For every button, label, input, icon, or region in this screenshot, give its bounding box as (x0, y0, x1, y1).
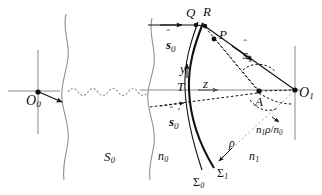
label-point-t: T (177, 80, 184, 93)
label-surface-sigma0: Σ0 (193, 176, 204, 190)
diagram-canvas (0, 0, 322, 195)
label-surface-s0: S0 (104, 150, 115, 165)
surface-s0-curve (62, 14, 69, 180)
point-dot-o1 (292, 87, 297, 92)
label-medium-n1: n1 (249, 150, 259, 164)
label-point-o1: O1 (299, 86, 314, 102)
label-scaled-rho: n1ρ/n0 (256, 124, 283, 137)
optics-ray-diagram-figure: O0 O1 Q R P T A y z S0 n0 n1 Σ0 Σ1 ρ n1ρ… (0, 0, 322, 195)
surface-n0-entry-curve (148, 18, 155, 180)
label-rho: ρ (229, 137, 235, 149)
label-point-p: P (219, 28, 227, 41)
point-dot-q (194, 23, 198, 27)
refracting-surface-sigma1-curve (189, 23, 214, 168)
wavy-propagation-path (68, 89, 148, 96)
label-medium-n0: n0 (158, 150, 168, 164)
label-point-r: R (203, 5, 211, 18)
point-dot-p (212, 37, 217, 42)
label-y-axis: y (180, 62, 186, 75)
label-point-a: A (255, 95, 263, 108)
label-unit-vector-s1: ˆs1 (243, 46, 253, 64)
point-dot-a (256, 88, 261, 93)
incident-ray-from-o0 (39, 92, 62, 102)
label-unit-vector-s0-prime: ˆs0′ (169, 113, 179, 131)
label-point-o0: O0 (26, 94, 41, 110)
label-point-q: Q (186, 6, 195, 19)
dashed-arc-a-to-o1 (259, 93, 292, 104)
scaled-rho-pointer-arrow (272, 117, 279, 122)
point-dot-r (203, 24, 207, 28)
label-surface-sigma1: Σ1 (217, 167, 228, 181)
label-z-axis: z (203, 77, 208, 90)
wavefront-sigma0-curve (185, 22, 202, 170)
label-unit-vector-s0: ˆs0 (166, 36, 176, 54)
